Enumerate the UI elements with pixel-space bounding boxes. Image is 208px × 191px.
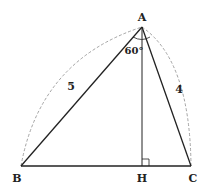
point-label-c: C — [189, 172, 198, 185]
right-angle-mark — [142, 159, 149, 166]
point-label-b: B — [12, 172, 21, 185]
side-label-ab: 5 — [67, 80, 75, 93]
side-label-ac: 4 — [175, 83, 183, 96]
point-label-h: H — [137, 172, 147, 185]
triangle-diagram: A B H C 60° 5 4 — [0, 0, 208, 191]
angle-label: 60° — [125, 45, 144, 56]
point-label-a: A — [137, 11, 147, 24]
